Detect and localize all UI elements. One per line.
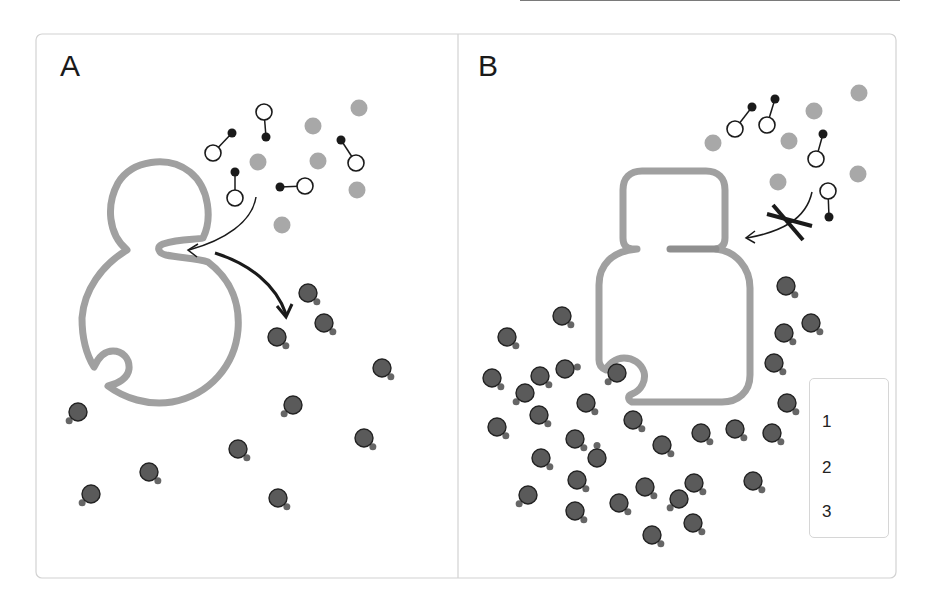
panelB-molecule-type3 [610,494,631,515]
panelA-molecule-type2 [274,217,291,234]
panelB-molecule-type3 [744,472,765,493]
panelA-molecule-type1 [256,104,272,142]
panelB-molecule-type3 [483,369,504,390]
figure-frame [36,34,896,578]
panelB-molecule-type3 [498,328,519,349]
panel-a-arrows [188,197,292,317]
panelB-molecule-type3 [802,314,823,335]
panelB-molecule-type3 [684,514,705,535]
panelB-molecule-type3 [636,478,657,499]
panelB-molecule-type3 [667,490,688,511]
panelA-molecule-type2 [305,118,322,135]
panelB-molecule-type2 [806,103,823,120]
panel-a-cell-membrane [82,162,238,403]
panelA-molecule-type3 [66,403,87,424]
panelB-molecule-type1 [820,183,836,222]
panelB-molecule-type3 [553,307,574,328]
panelA-molecule-type2 [310,153,327,170]
panelB-molecule-type3 [556,360,581,378]
panelB-molecule-type2 [781,133,798,150]
panelB-molecule-type3 [488,418,509,439]
panelA-molecule-type3 [268,328,289,349]
panelB-molecule-type3 [516,486,537,507]
panelB-molecule-type3 [531,367,552,388]
panelB-molecule-type2 [850,166,867,183]
panelB-molecule-type1 [727,103,757,138]
panelB-molecule-type2 [705,135,722,152]
panelB-molecule-type3 [692,424,713,445]
panel-b-blocked-arrow [746,192,812,243]
diagram-canvas [0,0,930,603]
panelB-molecule-type3 [513,384,534,405]
panelB-molecule-type3 [532,449,553,470]
panelB-molecule-type3 [685,474,706,495]
figure: A B 1 2 3 [0,0,930,603]
panelA-molecule-type1 [337,136,365,172]
panelA-molecule-type1 [276,178,314,194]
panelA-molecule-type3 [315,314,336,335]
panelA-molecule-type3 [373,359,394,380]
panelB-molecule-type3 [566,502,587,523]
panel-label-b: B [478,51,498,81]
panelA-molecule-type2 [349,182,366,199]
panelB-molecule-type3 [577,394,598,415]
panelA-molecule-type1 [205,129,237,162]
panelA-molecule-type3 [229,440,250,461]
legend-number-2: 2 [822,459,831,476]
legend-number-1: 1 [822,413,831,430]
panelB-molecule-type1 [759,95,780,134]
panel-label-a: A [60,51,80,81]
panelB-molecule-type3 [778,394,799,415]
panelA-molecule-type2 [351,100,368,117]
panelB-molecule-type1 [808,130,828,168]
panelB-molecule-type3 [726,420,747,441]
panelB-molecule-type3 [643,526,664,547]
panelA-molecule-type2 [250,154,267,171]
panelA-molecule-type3 [281,396,302,417]
panelB-molecule-type2 [770,174,787,191]
panelA-molecule-type3 [299,284,320,305]
panelB-molecule-type3 [777,277,798,298]
panelB-molecule-type3 [763,424,784,445]
panelB-molecule-type3 [588,442,606,467]
panelB-molecule-type3 [566,430,587,451]
legend-number-3: 3 [822,503,831,520]
panelB-molecule-type3 [530,406,551,427]
legend-box: 1 2 3 [809,378,889,538]
panelA-molecule-type3 [79,485,100,506]
panelA-molecule-type3 [355,429,376,450]
panelB-molecule-type3 [624,411,645,432]
panelA-molecule-type3 [140,463,161,484]
panelA-molecule-type3 [269,489,290,510]
panelB-molecule-type3 [765,354,786,375]
panelA-molecule-type1 [227,168,243,207]
panelB-molecule-type2 [851,85,868,102]
panelB-molecule-type3 [775,324,796,345]
panelB-molecule-type3 [568,471,589,492]
panelB-molecule-type3 [653,436,674,457]
